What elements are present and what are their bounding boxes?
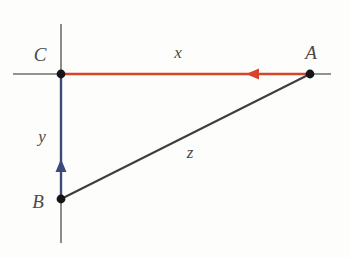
side-label-y: y bbox=[36, 127, 46, 146]
segment-z-line bbox=[61, 74, 310, 199]
segment-x-arrowhead bbox=[246, 69, 259, 80]
diagram-canvas: C A B x y z bbox=[0, 0, 349, 258]
segment-y-arrowhead bbox=[56, 159, 67, 172]
vertex-label-a: A bbox=[303, 42, 317, 63]
side-label-z: z bbox=[186, 143, 194, 162]
vertex-dot-c bbox=[57, 70, 66, 79]
vertex-dot-a bbox=[306, 70, 315, 79]
vertex-label-c: C bbox=[34, 44, 47, 65]
side-label-x: x bbox=[173, 43, 182, 62]
diagram-svg: C A B x y z bbox=[0, 0, 349, 258]
vertex-dot-b bbox=[57, 195, 66, 204]
vertex-label-b: B bbox=[32, 191, 44, 212]
